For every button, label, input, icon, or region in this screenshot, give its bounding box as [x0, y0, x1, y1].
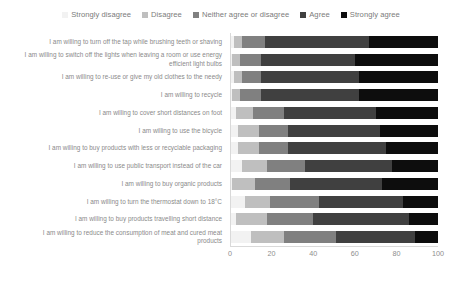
bar-segment[interactable] [284, 231, 336, 243]
bar-segment[interactable] [251, 231, 284, 243]
bar-segment[interactable] [261, 89, 359, 101]
bar-segment[interactable] [242, 71, 261, 83]
legend-item-disagree[interactable]: Disagree [142, 10, 182, 19]
bar-segment[interactable] [403, 196, 438, 208]
bar-segment[interactable] [232, 54, 240, 66]
bar-segment[interactable] [238, 142, 259, 154]
bar-segment[interactable] [236, 107, 253, 119]
bar-segment[interactable] [336, 231, 415, 243]
bar-segment[interactable] [232, 89, 240, 101]
y-axis-line [230, 33, 231, 246]
category-label: I am willing to use the bicycle [18, 122, 226, 140]
bar-segment[interactable] [230, 125, 238, 137]
bar-segment[interactable] [376, 107, 438, 119]
legend-item-strongly-disagree[interactable]: Strongly disagree [62, 10, 131, 19]
stacked-bar[interactable] [230, 213, 438, 225]
bar-segment[interactable] [355, 54, 438, 66]
bar-segment[interactable] [240, 89, 261, 101]
bar-segment[interactable] [261, 54, 355, 66]
legend-label-agree: Agree [309, 10, 330, 19]
bar-segment[interactable] [386, 142, 438, 154]
category-label: I am willing to cover short distances on… [18, 104, 226, 122]
category-label: I am willing to use public transport ins… [18, 157, 226, 175]
bar-segment[interactable] [230, 160, 242, 172]
legend-item-neither[interactable]: Neither agree or disagree [193, 10, 289, 19]
bar-row [230, 86, 438, 104]
legend-label-disagree: Disagree [151, 10, 182, 19]
category-label: I am willing to buy organic products [18, 175, 226, 193]
x-axis-ticks: 020406080100 [230, 249, 438, 263]
bar-segment[interactable] [259, 142, 288, 154]
stacked-bar[interactable] [230, 160, 438, 172]
bar-segment[interactable] [359, 89, 438, 101]
bar-segment[interactable] [409, 213, 438, 225]
bar-row [230, 193, 438, 211]
stacked-bar[interactable] [230, 231, 438, 243]
x-tick-label: 40 [309, 249, 317, 258]
category-label: I am willing to buy products with less o… [18, 140, 226, 158]
bar-row [230, 69, 438, 87]
legend-item-strongly-agree[interactable]: Strongly agree [341, 10, 400, 19]
bar-segment[interactable] [359, 71, 438, 83]
bar-segment[interactable] [382, 178, 438, 190]
stacked-bar[interactable] [230, 107, 438, 119]
bar-segment[interactable] [305, 160, 392, 172]
bar-segment[interactable] [265, 36, 369, 48]
legend-label-neither: Neither agree or disagree [202, 10, 289, 19]
bar-segment[interactable] [284, 107, 376, 119]
bar-segment[interactable] [234, 36, 242, 48]
bar-segment[interactable] [242, 160, 267, 172]
bar-segment[interactable] [259, 125, 288, 137]
legend-swatch-agree [300, 12, 306, 18]
bar-segment[interactable] [234, 71, 242, 83]
stacked-bar[interactable] [230, 36, 438, 48]
category-label: I am willing to reduce the consumption o… [18, 228, 226, 246]
stacked-bar[interactable] [230, 71, 438, 83]
bar-segment[interactable] [232, 178, 255, 190]
bar-segment[interactable] [288, 142, 386, 154]
stacked-bar[interactable] [230, 178, 438, 190]
x-tick-label: 0 [228, 249, 232, 258]
bar-segment[interactable] [369, 36, 438, 48]
bar-segment[interactable] [261, 71, 359, 83]
bar-segment[interactable] [236, 213, 267, 225]
bar-segment[interactable] [242, 36, 265, 48]
stacked-bar[interactable] [230, 54, 438, 66]
stacked-bar[interactable] [230, 89, 438, 101]
bar-row [230, 33, 438, 51]
bar-rows [230, 33, 438, 246]
bar-row [230, 211, 438, 229]
category-label: I am willing to recycle [18, 86, 226, 104]
chart-legend: Strongly disagree Disagree Neither agree… [0, 10, 462, 19]
bar-segment[interactable] [230, 231, 251, 243]
x-tick-label: 20 [268, 249, 276, 258]
bar-segment[interactable] [270, 196, 320, 208]
bar-segment[interactable] [267, 160, 304, 172]
bar-segment[interactable] [288, 125, 380, 137]
stacked-bar[interactable] [230, 142, 438, 154]
bar-segment[interactable] [253, 107, 284, 119]
bar-segment[interactable] [267, 213, 313, 225]
bar-segment[interactable] [230, 142, 238, 154]
bar-row [230, 228, 438, 246]
legend-item-agree[interactable]: Agree [300, 10, 330, 19]
plot-area [230, 33, 438, 246]
bar-segment[interactable] [240, 54, 261, 66]
bar-segment[interactable] [392, 160, 438, 172]
category-label: I am willing to turn the thermostat down… [18, 193, 226, 211]
bar-segment[interactable] [319, 196, 402, 208]
stacked-bar[interactable] [230, 125, 438, 137]
bar-segment[interactable] [230, 196, 245, 208]
bar-segment[interactable] [255, 178, 290, 190]
bar-segment[interactable] [313, 213, 409, 225]
legend-swatch-strongly-agree [341, 12, 347, 18]
bar-segment[interactable] [380, 125, 438, 137]
category-label: I am willing to switch off the lights wh… [18, 51, 226, 69]
bar-segment[interactable] [290, 178, 382, 190]
bar-segment[interactable] [245, 196, 270, 208]
bar-segment[interactable] [415, 231, 438, 243]
x-tick-label: 80 [392, 249, 400, 258]
category-label: I am willing to buy products travelling … [18, 211, 226, 229]
stacked-bar[interactable] [230, 196, 438, 208]
bar-segment[interactable] [238, 125, 259, 137]
